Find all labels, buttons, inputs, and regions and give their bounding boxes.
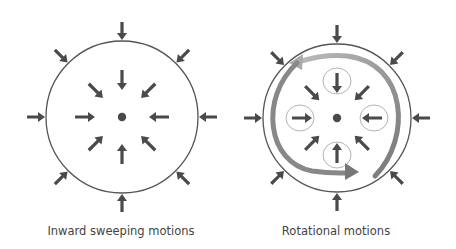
inner-inward-arrow-icon [332, 143, 342, 163]
center-dot-icon [118, 113, 126, 121]
rotational-panel [244, 25, 430, 211]
inner-inward-arrow-icon [141, 136, 156, 151]
inner-inward-arrow-icon [88, 136, 103, 151]
outer-inward-arrow-icon [176, 49, 190, 63]
inner-inward-arrow-icon [117, 144, 127, 164]
caption-inward: Inward sweeping motions [47, 224, 194, 238]
rotation-arrow-upper [297, 55, 398, 176]
outer-inward-arrow-icon [27, 112, 45, 122]
caption-rotational: Rotational motions [282, 224, 390, 238]
inner-inward-arrow-icon [355, 85, 370, 100]
outer-inward-arrow-icon [199, 112, 217, 122]
outer-inward-arrow-icon [270, 51, 284, 65]
inward-sweeping-panel [27, 22, 217, 212]
center-dot-icon [333, 114, 341, 122]
inner-inward-arrow-icon [362, 113, 382, 123]
inner-inward-arrow-icon [355, 136, 370, 151]
outer-inward-arrow-icon [412, 113, 430, 123]
inner-inward-arrow-icon [75, 112, 95, 122]
outer-inward-arrow-icon [176, 171, 190, 185]
inner-inward-arrow-icon [304, 136, 319, 151]
inner-inward-arrow-icon [149, 112, 169, 122]
inner-inward-arrow-icon [117, 70, 127, 90]
outer-inward-arrow-icon [332, 25, 342, 43]
inner-inward-arrow-icon [304, 85, 319, 100]
outer-inward-arrow-icon [270, 171, 284, 185]
outer-inward-arrow-icon [390, 171, 404, 185]
inner-inward-arrow-icon [332, 73, 342, 93]
rotation-arrowhead-icon [345, 163, 359, 180]
inner-inward-arrow-icon [88, 83, 103, 98]
outer-inward-arrow-icon [54, 49, 68, 63]
outer-inward-arrow-icon [117, 22, 127, 40]
outer-inward-arrow-icon [244, 113, 262, 123]
outer-inward-arrow-icon [54, 171, 68, 185]
diagram-canvas [0, 0, 456, 249]
outer-inward-arrow-icon [117, 194, 127, 212]
outer-inward-arrow-icon [332, 193, 342, 211]
outer-inward-arrow-icon [390, 51, 404, 65]
inner-inward-arrow-icon [292, 113, 312, 123]
inner-inward-arrow-icon [141, 83, 156, 98]
